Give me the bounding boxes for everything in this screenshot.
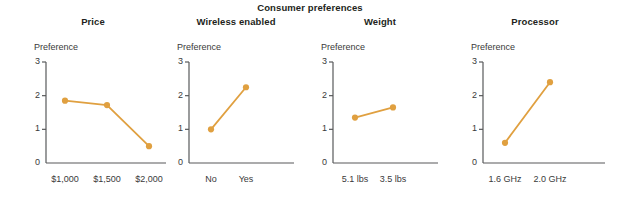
y-tick-label: 1 xyxy=(465,123,477,133)
data-line xyxy=(505,82,550,143)
y-tick-label: 1 xyxy=(171,123,183,133)
data-point-marker xyxy=(502,140,508,146)
data-point-marker xyxy=(104,102,110,108)
chart-panel-2: Wireless enabledPreference0123NoYes xyxy=(166,0,306,213)
chart-panel-3: WeightPreference01235.1 lbs3.5 lbs xyxy=(310,0,450,213)
y-tick-label: 2 xyxy=(465,90,477,100)
x-tick-label: 5.1 lbs xyxy=(342,174,369,184)
data-point-marker xyxy=(243,84,249,90)
y-tick-label: 0 xyxy=(28,157,40,167)
x-tick-label: Yes xyxy=(239,174,254,184)
x-tick-label: 1.6 GHz xyxy=(488,174,521,184)
x-tick-label: $1,500 xyxy=(93,174,121,184)
data-point-marker xyxy=(62,98,68,104)
y-tick-label: 0 xyxy=(465,157,477,167)
x-tick-label: No xyxy=(205,174,217,184)
y-tick-label: 1 xyxy=(315,123,327,133)
chart-panel-4: ProcessorPreference01231.6 GHz2.0 GHz xyxy=(455,0,615,213)
data-point-marker xyxy=(208,126,214,132)
x-tick-label: 2.0 GHz xyxy=(533,174,566,184)
y-tick-label: 3 xyxy=(171,56,183,66)
y-tick-label: 0 xyxy=(171,157,183,167)
y-tick-label: 3 xyxy=(465,56,477,66)
data-point-marker xyxy=(547,79,553,85)
panel-plot-area xyxy=(166,0,306,213)
y-tick-label: 2 xyxy=(315,90,327,100)
x-tick-label: 3.5 lbs xyxy=(380,174,407,184)
data-line xyxy=(355,107,393,117)
x-tick-label: $1,000 xyxy=(51,174,79,184)
y-tick-label: 3 xyxy=(315,56,327,66)
data-point-marker xyxy=(146,143,152,149)
consumer-preferences-figure: Consumer preferences PricePreference0123… xyxy=(0,0,620,213)
y-tick-label: 1 xyxy=(28,123,40,133)
data-point-marker xyxy=(390,104,396,110)
data-line xyxy=(211,87,246,129)
y-tick-label: 3 xyxy=(28,56,40,66)
chart-panel-1: PricePreference0123$1,000$1,500$2,000 xyxy=(18,0,168,213)
x-tick-label: $2,000 xyxy=(135,174,163,184)
data-point-marker xyxy=(352,114,358,120)
y-tick-label: 0 xyxy=(315,157,327,167)
y-tick-label: 2 xyxy=(171,90,183,100)
y-tick-label: 2 xyxy=(28,90,40,100)
